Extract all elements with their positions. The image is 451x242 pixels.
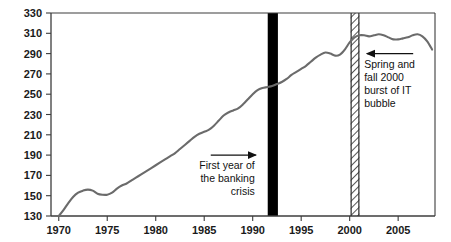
- x-tick-label: 1970: [47, 224, 71, 236]
- y-tick-label: 290: [24, 48, 42, 60]
- y-tick-label: 330: [24, 7, 42, 19]
- y-tick-label: 150: [24, 190, 42, 202]
- line-chart: 130150170190210230250270290310330 197019…: [0, 0, 451, 242]
- annotation-line: bubble: [364, 97, 396, 109]
- y-tick-label: 190: [24, 149, 42, 161]
- annotation-line: the banking: [200, 172, 254, 184]
- it-bubble-band: [351, 13, 360, 216]
- x-axis-ticks: 19701975198019851990199520002005: [47, 216, 411, 236]
- annotation-line: First year of: [199, 159, 255, 171]
- x-tick-label: 2000: [337, 224, 361, 236]
- y-tick-label: 210: [24, 129, 42, 141]
- y-tick-label: 230: [24, 109, 42, 121]
- x-tick-label: 2005: [386, 224, 410, 236]
- x-tick-label: 1985: [192, 224, 216, 236]
- annotation-line: burst of IT: [364, 84, 412, 96]
- x-tick-label: 1995: [289, 224, 313, 236]
- y-tick-label: 310: [24, 27, 42, 39]
- y-tick-label: 170: [24, 169, 42, 181]
- annotation-line: Spring and: [364, 58, 415, 70]
- x-tick-label: 1990: [240, 224, 264, 236]
- chart-container: 130150170190210230250270290310330 197019…: [0, 0, 451, 242]
- x-tick-label: 1980: [143, 224, 167, 236]
- y-tick-label: 250: [24, 88, 42, 100]
- y-axis-ticks: 130150170190210230250270290310330: [24, 7, 51, 222]
- y-tick-label: 270: [24, 68, 42, 80]
- annotation-line: fall 2000: [364, 71, 404, 83]
- y-tick-label: 130: [24, 210, 42, 222]
- annotation-line: crisis: [231, 185, 255, 197]
- banking-crisis-band: [268, 13, 278, 216]
- x-tick-label: 1975: [95, 224, 119, 236]
